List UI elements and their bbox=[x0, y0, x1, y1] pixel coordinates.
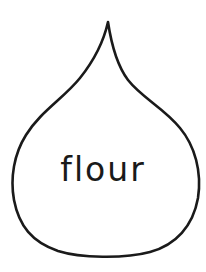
flour-drop-card: flour bbox=[0, 0, 206, 272]
drop-label: flour bbox=[0, 150, 206, 190]
drop-outline-icon bbox=[0, 0, 206, 272]
